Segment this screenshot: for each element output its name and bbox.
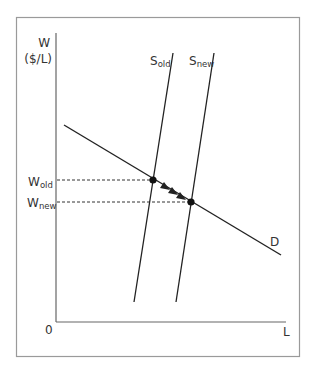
supply-new-curve	[176, 53, 214, 302]
supply-old-label: Sold	[150, 54, 171, 69]
y-axis-label: W	[38, 36, 50, 50]
equilibrium-new-point	[187, 198, 194, 205]
origin-label: 0	[45, 323, 53, 337]
supply-new-label: Snew	[189, 54, 214, 69]
movement-arrows	[160, 182, 186, 200]
wage-old-label: Wold	[28, 175, 53, 190]
x-axis-label: L	[283, 325, 290, 339]
labor-market-diagram: W ($/L) 0 L Wold Wnew D Sold Snew	[0, 0, 309, 366]
demand-label: D	[270, 235, 279, 249]
wage-new-label: Wnew	[27, 196, 56, 211]
y-axis-unit: ($/L)	[24, 52, 52, 66]
equilibrium-old-point	[149, 176, 156, 183]
